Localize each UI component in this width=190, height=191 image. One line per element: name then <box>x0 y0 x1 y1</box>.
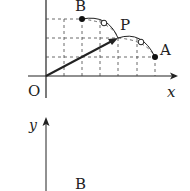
open-circle-2 <box>138 39 144 45</box>
label-a: A <box>159 41 171 59</box>
label-b-bottom: B <box>75 175 86 191</box>
vector-op <box>46 41 112 76</box>
point-b-dot <box>79 16 85 22</box>
label-x-axis: x <box>167 83 176 101</box>
label-p: P <box>120 16 130 34</box>
label-y-axis: y <box>28 117 38 133</box>
diagram-canvas: B P A O x y B <box>0 0 190 191</box>
point-a-dot <box>152 54 158 60</box>
label-origin: O <box>28 82 40 100</box>
label-b: B <box>75 0 86 15</box>
top-figure: B P A O x <box>28 0 178 101</box>
open-circle-1 <box>101 20 107 26</box>
bottom-figure: y B <box>28 117 86 191</box>
